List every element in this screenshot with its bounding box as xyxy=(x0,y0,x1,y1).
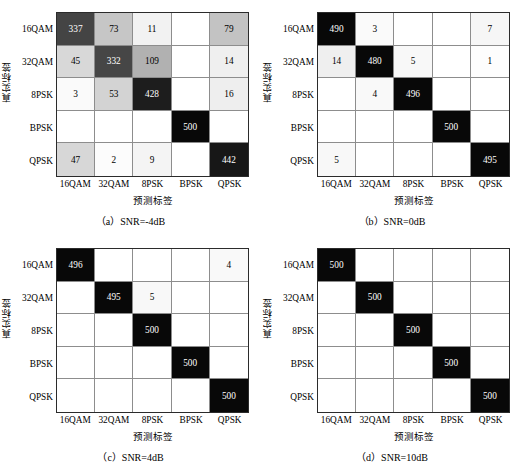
heatmap-cell: 1 xyxy=(471,46,509,79)
heatmap-cell xyxy=(318,282,356,315)
panel-caption: （b）SNR=0dB xyxy=(261,213,523,228)
heatmap-cell: 5 xyxy=(394,46,432,79)
x-axis-label: 预测标签 xyxy=(56,429,249,443)
row-label-8psk: 8PSK xyxy=(14,314,56,347)
heatmap-cell: 500 xyxy=(210,379,248,412)
heatmap-cell xyxy=(57,379,95,412)
row-labels: 16QAM32QAM8PSKBPSKQPSK xyxy=(14,12,56,177)
heatmap-cell: 496 xyxy=(57,249,95,282)
col-label-bpsk: BPSK xyxy=(172,415,211,425)
heatmap-matrix: 3377311794533210914353428165004729442 xyxy=(56,12,249,177)
row-label-32qam: 32QAM xyxy=(14,281,56,314)
heatmap-cell xyxy=(394,347,432,380)
heatmap-cell xyxy=(210,314,248,347)
heatmap-cell: 500 xyxy=(133,314,171,347)
heatmap-cell xyxy=(356,347,394,380)
heatmap-cell xyxy=(318,379,356,412)
heatmap-cell: 53 xyxy=(95,78,133,111)
heatmap-cell: 4 xyxy=(356,78,394,111)
heatmap-cell: 442 xyxy=(210,143,248,176)
col-label-8psk: 8PSK xyxy=(394,179,433,189)
col-label-32qam: 32QAM xyxy=(356,179,395,189)
panel-b: 真实标签 16QAM32QAM8PSKBPSKQPSK 490371448051… xyxy=(261,0,523,236)
heatmap-cell xyxy=(95,249,133,282)
heatmap-cell xyxy=(172,78,210,111)
row-label-bpsk: BPSK xyxy=(14,111,56,144)
x-axis-label: 预测标签 xyxy=(317,429,510,443)
heatmap-cell xyxy=(433,379,471,412)
heatmap-cell xyxy=(394,111,432,144)
heatmap-cell: 480 xyxy=(356,46,394,79)
heatmap-cell xyxy=(172,379,210,412)
col-label-qpsk: QPSK xyxy=(210,179,249,189)
heatmap-cell xyxy=(133,379,171,412)
heatmap-cell xyxy=(394,249,432,282)
heatmap-cell xyxy=(394,13,432,46)
heatmap-cell: 500 xyxy=(433,111,471,144)
heatmap-cell: 14 xyxy=(210,46,248,79)
heatmap-cell: 16 xyxy=(210,78,248,111)
heatmap-cell: 500 xyxy=(318,249,356,282)
heatmap-cell xyxy=(394,379,432,412)
heatmap-cell xyxy=(433,143,471,176)
heatmap-cell xyxy=(318,78,356,111)
heatmap-cell xyxy=(172,314,210,347)
heatmap-cell xyxy=(318,111,356,144)
heatmap-cell xyxy=(433,249,471,282)
heatmap-cell: 490 xyxy=(318,13,356,46)
heatmap-cell xyxy=(57,282,95,315)
heatmap-cell xyxy=(95,111,133,144)
heatmap-matrix: 500500500500500 xyxy=(317,248,510,413)
col-label-bpsk: BPSK xyxy=(433,179,472,189)
panel-d-plot: 真实标签 16QAM32QAM8PSKBPSKQPSK 500500500500… xyxy=(261,236,523,432)
heatmap-cell xyxy=(210,111,248,144)
heatmap-cell: 500 xyxy=(172,111,210,144)
heatmap-cell xyxy=(356,379,394,412)
heatmap-cell xyxy=(433,314,471,347)
heatmap-cell xyxy=(133,111,171,144)
col-label-qpsk: QPSK xyxy=(210,415,249,425)
col-label-16qam: 16QAM xyxy=(317,415,356,425)
heatmap-cell xyxy=(394,282,432,315)
heatmap-cell: 500 xyxy=(394,314,432,347)
panel-caption: （c）SNR=4dB xyxy=(0,449,261,464)
heatmap-cell xyxy=(318,347,356,380)
heatmap-cell xyxy=(318,314,356,347)
heatmap-cell xyxy=(57,347,95,380)
heatmap-cell: 500 xyxy=(356,282,394,315)
heatmap-cell xyxy=(471,78,509,111)
row-label-16qam: 16QAM xyxy=(14,12,56,45)
heatmap-cell xyxy=(95,347,133,380)
row-labels: 16QAM32QAM8PSKBPSKQPSK xyxy=(275,248,317,413)
heatmap-cell xyxy=(471,111,509,144)
row-label-bpsk: BPSK xyxy=(275,111,317,144)
heatmap-matrix: 49037144805144965005495 xyxy=(317,12,510,177)
heatmap-cell: 9 xyxy=(133,143,171,176)
heatmap-cell: 495 xyxy=(95,282,133,315)
col-label-32qam: 32QAM xyxy=(95,415,134,425)
col-label-8psk: 8PSK xyxy=(133,179,172,189)
panel-c-plot: 真实标签 16QAM32QAM8PSKBPSKQPSK 496449555005… xyxy=(0,236,261,432)
heatmap-cell xyxy=(172,249,210,282)
heatmap-cell xyxy=(210,282,248,315)
row-label-bpsk: BPSK xyxy=(14,347,56,380)
heatmap-cell xyxy=(356,249,394,282)
column-labels: 16QAM32QAM8PSKBPSKQPSK xyxy=(317,415,510,425)
heatmap-cell: 73 xyxy=(95,13,133,46)
heatmap-cell: 500 xyxy=(433,347,471,380)
heatmap-cell xyxy=(57,314,95,347)
heatmap-cell xyxy=(172,282,210,315)
heatmap-cell xyxy=(471,347,509,380)
heatmap-cell: 4 xyxy=(210,249,248,282)
heatmap-cell: 428 xyxy=(133,78,171,111)
row-label-16qam: 16QAM xyxy=(275,248,317,281)
col-label-qpsk: QPSK xyxy=(471,415,510,425)
x-axis-label: 预测标签 xyxy=(56,193,249,207)
heatmap-cell xyxy=(95,379,133,412)
row-label-qpsk: QPSK xyxy=(275,380,317,413)
heatmap-cell xyxy=(471,249,509,282)
col-label-16qam: 16QAM xyxy=(56,179,95,189)
panel-b-plot: 真实标签 16QAM32QAM8PSKBPSKQPSK 490371448051… xyxy=(261,0,523,196)
col-label-32qam: 32QAM xyxy=(356,415,395,425)
heatmap-cell xyxy=(356,143,394,176)
